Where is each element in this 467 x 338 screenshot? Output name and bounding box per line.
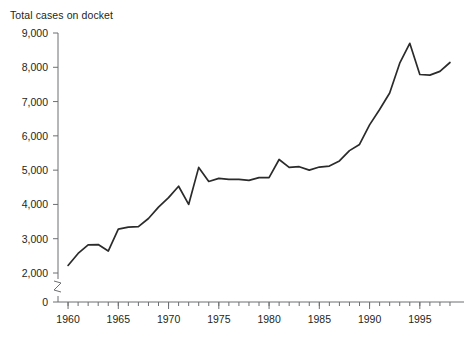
svg-text:1995: 1995 [408,313,432,325]
svg-text:1965: 1965 [107,313,131,325]
svg-text:9,000: 9,000 [22,27,48,39]
svg-text:1975: 1975 [207,313,231,325]
svg-text:0: 0 [42,296,48,308]
svg-text:1985: 1985 [308,313,332,325]
y-axis-ticks [53,33,58,302]
svg-text:1960: 1960 [56,313,80,325]
axis-lines [58,33,464,302]
svg-text:4,000: 4,000 [22,198,48,210]
svg-text:5,000: 5,000 [22,164,48,176]
svg-text:6,000: 6,000 [22,130,48,142]
y-axis-break-icon [54,281,61,292]
svg-text:1980: 1980 [257,313,281,325]
data-series-line [68,43,450,265]
svg-text:1970: 1970 [157,313,181,325]
svg-text:7,000: 7,000 [22,96,48,108]
svg-text:2,000: 2,000 [22,267,48,279]
line-chart-plot: 02,0003,0004,0005,0006,0007,0008,0009,00… [0,0,467,338]
chart-figure: Total cases on docket 02,0003,0004,0005,… [0,0,467,338]
svg-text:1990: 1990 [358,313,382,325]
y-axis-tick-labels: 02,0003,0004,0005,0006,0007,0008,0009,00… [22,27,48,308]
svg-text:8,000: 8,000 [22,61,48,73]
svg-text:3,000: 3,000 [22,233,48,245]
x-axis-ticks [68,302,450,309]
x-axis-tick-labels: 19601965197019751980198519901995 [56,313,431,325]
